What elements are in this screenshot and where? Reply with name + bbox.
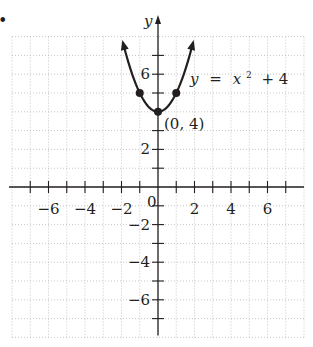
parabola-graph: • −6−4−224662−2−4−6 y 0 y = x 2 + 4 (0, … <box>0 0 313 347</box>
x-tick-label: −6 <box>37 200 59 218</box>
y-tick-label: −2 <box>128 216 150 234</box>
equation-rest: + 4 <box>261 70 288 88</box>
arrowhead-icon <box>187 40 195 51</box>
y-tick-label: 2 <box>140 140 150 158</box>
axes <box>9 15 304 335</box>
bullet-marker: • <box>0 11 7 30</box>
x-tick-label: 4 <box>226 200 236 218</box>
origin-label: 0 <box>147 193 157 211</box>
y-tick-label: −6 <box>128 291 150 309</box>
equation-equals: = <box>209 70 222 88</box>
y-tick-label: 6 <box>140 65 150 83</box>
data-point <box>136 89 144 97</box>
x-tick-label: −4 <box>74 200 96 218</box>
equation-exponent: 2 <box>246 70 252 80</box>
data-point <box>172 89 180 97</box>
data-point <box>154 108 162 116</box>
x-tick-label: 6 <box>263 200 273 218</box>
y-tick-label: −4 <box>128 253 150 271</box>
arrowhead-icon <box>121 40 129 51</box>
vertex-label: (0, 4) <box>164 115 204 133</box>
equation-y: y <box>189 70 199 88</box>
x-tick-label: 2 <box>190 200 200 218</box>
equation-label: y = x 2 + 4 <box>189 64 288 88</box>
y-axis-arrow-icon <box>155 15 161 24</box>
y-axis-label: y <box>143 12 153 30</box>
equation-x: x <box>233 70 242 88</box>
